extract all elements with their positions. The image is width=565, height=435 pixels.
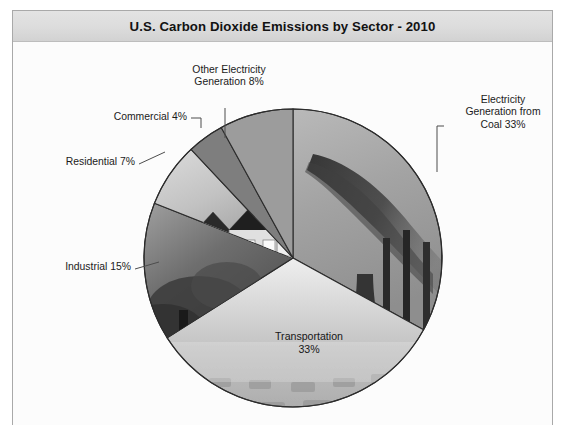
chart-title: U.S. Carbon Dioxide Emissions by Sector … [130, 19, 436, 34]
chart-frame: U.S. Carbon Dioxide Emissions by Sector … [12, 10, 553, 425]
title-band: U.S. Carbon Dioxide Emissions by Sector … [13, 11, 552, 42]
traffic-cars-dark [201, 430, 393, 435]
leader-line-electricity-coal [437, 126, 444, 172]
leader-line-commercial [191, 118, 201, 128]
leader-line-residential [139, 152, 165, 164]
slice-label-electricity-coal: Electricity Generation from Coal 33% [450, 94, 556, 131]
slice-label-industrial: Industrial 15% [13, 261, 131, 273]
figure-canvas: U.S. Carbon Dioxide Emissions by Sector … [0, 0, 565, 435]
slice-label-other-electricity: Other Electricity Generation 8% [165, 64, 293, 89]
plot-area: Other Electricity Generation 8% Electric… [13, 42, 552, 425]
smokestack [423, 242, 430, 350]
slice-label-commercial: Commercial 4% [63, 111, 187, 123]
slice-label-residential: Residential 7% [17, 156, 135, 168]
slice-label-transportation: Transportation 33% [249, 330, 369, 356]
